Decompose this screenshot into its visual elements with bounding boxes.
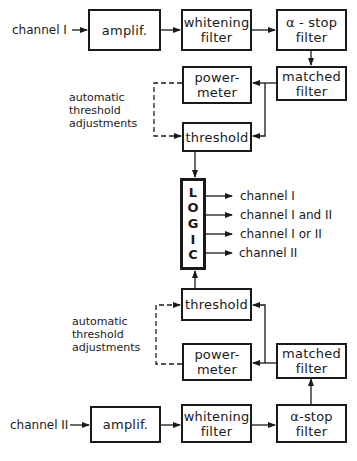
logic-letter: L (189, 186, 197, 200)
logic-output-channel-2: channel II (239, 246, 297, 260)
channel-1-amplifier-block: amplif. (88, 9, 161, 51)
logic-output-channel-1-and-2: channel I and II (240, 208, 332, 222)
channel-2-matched-filter-block: matched filter (276, 343, 347, 379)
channel-2-whitening-filter-block: whitening filter (181, 404, 252, 443)
block-label: whitening (184, 15, 250, 30)
block-label: filter (296, 84, 327, 99)
logic-letter: G (188, 217, 199, 231)
block-label: filter (296, 361, 327, 376)
block-label: meter (197, 362, 237, 377)
block-label: power- (194, 347, 239, 362)
logic-letter: C (188, 248, 198, 262)
label-line: adjustments (72, 341, 140, 354)
block-label: amplif. (103, 417, 148, 432)
channel-1-matched-filter-block: matched filter (276, 66, 347, 101)
channel-1-whitening-filter-block: whitening filter (181, 9, 252, 51)
block-label: α - stop (286, 15, 337, 30)
channel-2-threshold-block: threshold (181, 288, 252, 321)
label-line: threshold (72, 328, 140, 341)
block-label: filter (296, 30, 327, 45)
block-label: threshold (185, 130, 248, 145)
channel-2-alpha-stop-filter-block: α-stop filter (276, 404, 347, 443)
block-label: amplif. (102, 23, 147, 38)
block-label: whitening (184, 409, 250, 424)
label-line: automatic (69, 91, 137, 104)
label-line: adjustments (69, 117, 137, 130)
block-label: filter (201, 30, 232, 45)
channel-2-power-meter-block: power- meter (182, 343, 252, 381)
block-label: filter (296, 424, 327, 439)
block-label: power- (194, 70, 239, 85)
channel-1-input-label: channel I (12, 23, 67, 37)
channel-1-threshold-block: threshold (182, 122, 252, 152)
channel-2-feedback-label: automatic threshold adjustments (72, 315, 140, 354)
channel-2-amplifier-block: amplif. (90, 406, 161, 443)
block-label: meter (197, 85, 237, 100)
channel-1-power-meter-block: power- meter (182, 66, 252, 104)
block-label: filter (201, 424, 232, 439)
block-label: α-stop (290, 409, 333, 424)
logic-letter: O (187, 201, 198, 215)
logic-block: L O G I C (180, 178, 206, 270)
logic-output-channel-1-or-2: channel I or II (240, 227, 322, 241)
logic-letter: I (191, 233, 196, 247)
label-line: automatic (72, 315, 140, 328)
block-label: matched (282, 346, 341, 361)
channel-1-feedback-label: automatic threshold adjustments (69, 91, 137, 130)
block-label: threshold (185, 297, 248, 312)
logic-output-channel-1: channel I (240, 189, 295, 203)
channel-2-input-label: channel II (10, 418, 68, 432)
label-line: threshold (69, 104, 137, 117)
channel-1-alpha-stop-filter-block: α - stop filter (276, 9, 347, 51)
block-label: matched (282, 69, 341, 84)
